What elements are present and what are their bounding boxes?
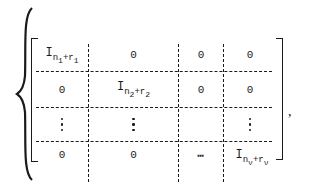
cell-r1c0: 0: [36, 73, 88, 106]
cell-r0c1: 0: [89, 40, 178, 70]
cell-r2c1: [89, 109, 178, 140]
cell-r3c0: 0: [36, 143, 88, 167]
vertical-ellipsis: [249, 118, 252, 132]
identity-block-2: In2+r2: [117, 80, 150, 99]
cell-r0c0: In1+r1: [36, 40, 88, 70]
trailing-comma: ,: [288, 104, 292, 120]
vertical-ellipsis: [61, 118, 64, 132]
horizontal-ellipsis: ⋯: [197, 149, 205, 162]
cell-r2c4: [224, 109, 276, 140]
cell-r1c1: In2+r2: [89, 73, 178, 106]
cell-r3c2: ⋯: [179, 143, 223, 167]
zero-entry: 0: [130, 149, 137, 161]
vertical-ellipsis: [132, 118, 135, 132]
row-separator-1: [36, 71, 272, 72]
zero-entry: 0: [198, 84, 205, 96]
cell-r1c4: 0: [224, 73, 276, 106]
zero-entry: 0: [247, 49, 254, 61]
zero-entry: 0: [59, 149, 66, 161]
right-square-bracket: [276, 38, 283, 160]
zero-entry: 0: [247, 84, 254, 96]
cell-r0c4: 0: [224, 40, 276, 70]
row-separator-3: [36, 141, 272, 142]
cell-r2c0: [36, 109, 88, 140]
zero-entry: 0: [198, 49, 205, 61]
zero-entry: 0: [59, 84, 66, 96]
cell-r1c2: 0: [179, 73, 223, 106]
row-separator-2: [36, 107, 272, 108]
identity-block-1: In1+r1: [45, 46, 78, 65]
zero-entry: 0: [130, 49, 137, 61]
cell-r3c1: 0: [89, 143, 178, 167]
cell-r3c4: Inν+rν: [224, 143, 280, 171]
cell-r0c2: 0: [179, 40, 223, 70]
identity-block-nu: Inν+rν: [235, 148, 268, 167]
